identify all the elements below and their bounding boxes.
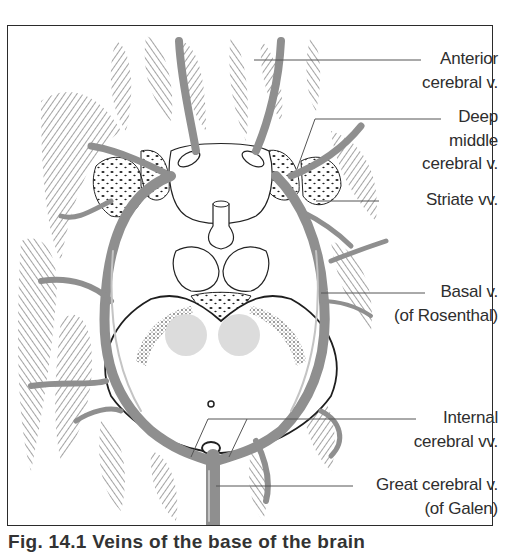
label-line: Internal — [414, 406, 498, 430]
figure-caption: Fig. 14.1 Veins of the base of the brain — [8, 531, 365, 553]
label-line: cerebral v. — [422, 152, 498, 176]
label-anterior-cerebral-v: Anterior cerebral v. — [422, 47, 498, 94]
label-great-cerebral-v: Great cerebral v. (of Galen) — [376, 473, 498, 520]
label-deep-middle-cerebral-v: Deep middle cerebral v. — [422, 105, 498, 176]
label-line: Anterior — [422, 47, 498, 71]
label-line: (of Rosenthal) — [394, 304, 498, 328]
label-line: Basal v. — [394, 280, 498, 304]
label-line: Deep — [422, 105, 498, 129]
label-line: cerebral v. — [422, 71, 498, 95]
label-basal-v: Basal v. (of Rosenthal) — [394, 280, 498, 327]
label-line: cerebral vv. — [414, 430, 498, 454]
label-internal-cerebral-vv: Internal cerebral vv. — [414, 406, 498, 453]
label-line: middle — [422, 129, 498, 153]
label-striate-vv: Striate vv. — [426, 188, 498, 212]
mammillary-body-left — [173, 247, 219, 291]
label-line: (of Galen) — [376, 497, 498, 521]
label-line: Striate vv. — [426, 188, 498, 212]
mammillary-body-right — [223, 247, 269, 291]
label-line: Great cerebral v. — [376, 473, 498, 497]
red-nucleus-left — [165, 314, 207, 356]
red-nucleus-right — [218, 314, 260, 356]
